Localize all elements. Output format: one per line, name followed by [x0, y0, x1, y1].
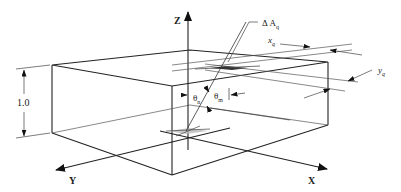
y-q-label: yq: [377, 65, 385, 77]
x-q-label: xq: [267, 35, 275, 47]
y-q-arrow-in: [348, 70, 372, 81]
theta-m-marker: [210, 88, 290, 120]
delta-area-label: Δ Aq: [262, 18, 279, 30]
theta-n-label: θn: [193, 93, 200, 105]
x-axis-label: X: [308, 175, 316, 186]
box-geometry-diagram: 1.0 Z Y X Δ Aq xq yq: [0, 0, 401, 192]
x-q-arrow-in: [280, 44, 310, 47]
theta-m-label: θm: [214, 91, 223, 103]
x-axis: [160, 131, 327, 169]
y-axis-label: Y: [69, 175, 77, 186]
height-dimension-label: 1.0: [17, 97, 30, 108]
x-q-strip: [172, 44, 352, 71]
y-q-arrow-out: [304, 89, 330, 98]
y-axis: [56, 128, 230, 170]
z-axis-label: Z: [174, 15, 181, 26]
